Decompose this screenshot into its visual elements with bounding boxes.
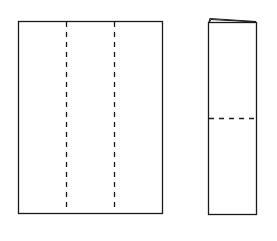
folding-diagram — [0, 0, 277, 241]
trifolded-sheet — [209, 19, 257, 215]
diagram-canvas — [0, 0, 277, 241]
unfolded-sheet — [19, 22, 163, 214]
sheet-outline — [19, 22, 163, 214]
